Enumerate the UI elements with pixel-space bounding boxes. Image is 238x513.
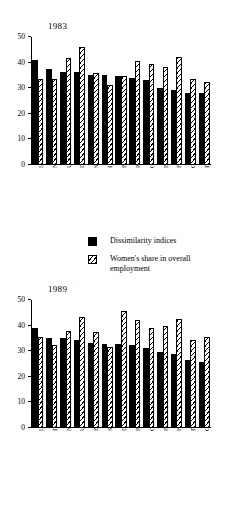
bar-dissimilarity: [199, 362, 205, 428]
y-tick-label: 40: [5, 322, 25, 329]
bar-group: [74, 300, 85, 428]
y-tick-label: 20: [5, 373, 25, 380]
y-tick-mark: [28, 325, 31, 326]
y-tick-mark: [28, 376, 31, 377]
bar-womens-share: [190, 340, 196, 428]
y-tick-label: 0: [5, 424, 25, 431]
bar-womens-share: [107, 85, 113, 165]
bar-group: [102, 37, 113, 165]
bar-group: [185, 300, 196, 428]
bar-womens-share: [204, 82, 210, 165]
bar-dissimilarity: [171, 90, 177, 165]
y-tick-label: 0: [5, 161, 25, 168]
bar-group: [88, 300, 99, 428]
bar-group: [143, 37, 154, 165]
bar-group: [102, 300, 113, 428]
bar-dissimilarity: [60, 338, 66, 428]
bar-womens-share: [107, 347, 113, 428]
legend-label-womens-share: Women's share in overall employment: [110, 254, 215, 273]
bar-dissimilarity: [115, 76, 121, 165]
bar-group: [157, 37, 168, 165]
bar-dissimilarity: [46, 69, 52, 165]
bar-womens-share: [149, 328, 155, 428]
y-tick-label: 30: [5, 84, 25, 91]
bar-group: [199, 37, 210, 165]
bar-womens-share: [135, 61, 141, 165]
bar-womens-share: [79, 47, 85, 165]
bar-chart-1983: 1983 01020304050 LUXEMBOURGNETHERLANDSUN…: [0, 0, 238, 240]
bar-dissimilarity: [199, 93, 205, 165]
bar-womens-share: [93, 332, 99, 428]
y-tick-mark: [28, 350, 31, 351]
bar-group: [32, 37, 43, 165]
bar-womens-share: [176, 319, 182, 428]
bar-womens-share: [176, 57, 182, 165]
legend-label-dissimilarity: Dissimilarity indices: [110, 236, 176, 246]
bar-group: [185, 37, 196, 165]
bar-dissimilarity: [143, 80, 149, 165]
bar-womens-share: [190, 79, 196, 165]
bar-dissimilarity: [60, 72, 66, 165]
legend-swatch-hatch-icon: [88, 255, 97, 264]
chart-panel-1989: 1989 01020304050 LUXEMBOURGIRELANDNETHER…: [0, 275, 238, 513]
bar-group: [143, 300, 154, 428]
bar-dissimilarity: [102, 344, 108, 428]
bar-womens-share: [204, 337, 210, 428]
y-tick-label: 50: [5, 296, 25, 303]
chart-title-1989: 1989: [48, 284, 67, 294]
bar-womens-share: [52, 79, 58, 165]
bar-womens-share: [52, 345, 58, 428]
bar-group-container-1989: [31, 300, 211, 428]
y-tick-label: 10: [5, 398, 25, 405]
y-tick-label: 30: [5, 347, 25, 354]
bar-dissimilarity: [129, 78, 135, 165]
bar-dissimilarity: [32, 328, 38, 428]
y-tick-mark: [28, 138, 31, 139]
legend-swatch-solid-icon: [88, 237, 97, 246]
y-tick-mark: [28, 113, 31, 114]
bar-dissimilarity: [157, 352, 163, 428]
bar-dissimilarity: [74, 72, 80, 165]
bar-chart-1989: 1989 01020304050 LUXEMBOURGIRELANDNETHER…: [0, 275, 238, 513]
bar-group: [32, 300, 43, 428]
bar-group: [88, 37, 99, 165]
bar-dissimilarity: [143, 348, 149, 428]
bar-group: [60, 300, 71, 428]
bar-womens-share: [93, 73, 99, 165]
chart-title-1983: 1983: [48, 21, 67, 31]
plot-area-1983: [31, 37, 211, 165]
bar-dissimilarity: [185, 360, 191, 428]
bar-womens-share: [149, 64, 155, 165]
y-tick-mark: [28, 87, 31, 88]
bar-dissimilarity: [185, 93, 191, 165]
bar-group: [115, 37, 126, 165]
y-tick-label: 10: [5, 135, 25, 142]
chart-panel-1983: 1983 01020304050 LUXEMBOURGNETHERLANDSUN…: [0, 0, 238, 240]
bar-womens-share: [66, 58, 72, 165]
bar-group: [129, 37, 140, 165]
bar-dissimilarity: [74, 340, 80, 428]
bar-dissimilarity: [88, 343, 94, 428]
y-tick-mark: [28, 299, 31, 300]
y-tick-mark: [28, 427, 31, 428]
bar-womens-share: [66, 331, 72, 428]
y-tick-mark: [28, 401, 31, 402]
y-tick-mark: [28, 164, 31, 165]
bar-dissimilarity: [88, 75, 94, 165]
bar-womens-share: [135, 320, 141, 428]
bar-dissimilarity: [171, 354, 177, 428]
plot-area-1989: [31, 300, 211, 428]
bar-group-container-1983: [31, 37, 211, 165]
bar-dissimilarity: [32, 60, 38, 165]
bar-womens-share: [163, 67, 169, 165]
y-tick-label: 40: [5, 59, 25, 66]
y-tick-mark: [28, 36, 31, 37]
bar-dissimilarity: [46, 338, 52, 428]
bar-group: [157, 300, 168, 428]
bar-womens-share: [79, 317, 85, 428]
bar-womens-share: [163, 326, 169, 428]
bar-group: [171, 300, 182, 428]
bar-womens-share: [38, 79, 44, 165]
bar-group: [129, 300, 140, 428]
bar-group: [74, 37, 85, 165]
